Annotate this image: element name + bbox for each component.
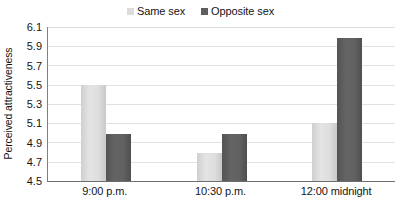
x-axis-tick-label: 9:00 p.m. xyxy=(82,185,127,197)
y-axis-tick-label: 5.7 xyxy=(27,60,42,71)
y-axis-tick-label: 4.9 xyxy=(27,137,42,148)
legend-label-opposite-sex: Opposite sex xyxy=(211,6,274,17)
y-axis-tick-label: 6.1 xyxy=(27,22,42,33)
bar xyxy=(106,134,131,181)
chart-legend: Same sex Opposite sex xyxy=(0,2,401,20)
legend-swatch-opposite-sex xyxy=(201,8,208,15)
x-axis-tick-labels: 9:00 p.m.10:30 p.m.12:00 midnight xyxy=(47,185,394,203)
bar xyxy=(222,134,247,181)
plot-area xyxy=(47,27,395,182)
bar xyxy=(81,85,106,181)
bar xyxy=(197,153,222,181)
y-axis-tick-label: 5.1 xyxy=(27,118,42,129)
y-axis-tick-label: 4.5 xyxy=(27,176,42,187)
bar xyxy=(312,123,337,181)
legend-item-opposite-sex: Opposite sex xyxy=(201,6,274,17)
y-axis-tick-label: 4.7 xyxy=(27,156,42,167)
y-axis-tick-label: 5.9 xyxy=(27,41,42,52)
x-axis-tick-label: 10:30 p.m. xyxy=(195,185,246,197)
legend-item-same-sex: Same sex xyxy=(127,6,185,17)
bar xyxy=(337,38,362,181)
y-axis-tick-label: 5.3 xyxy=(27,99,42,110)
x-axis-tick-label: 12:00 midnight xyxy=(301,185,372,197)
bars-layer xyxy=(48,27,395,181)
y-axis-tick-labels: 6.15.95.75.55.35.14.94.74.5 xyxy=(16,21,45,187)
legend-swatch-same-sex xyxy=(127,8,134,15)
y-axis-tick-label: 5.5 xyxy=(27,79,42,90)
y-axis-title: Perceived attractiveness xyxy=(0,22,16,184)
bar-chart: Same sex Opposite sex Perceived attracti… xyxy=(0,0,401,208)
y-axis-title-text: Perceived attractiveness xyxy=(3,47,14,159)
legend-label-same-sex: Same sex xyxy=(137,6,185,17)
